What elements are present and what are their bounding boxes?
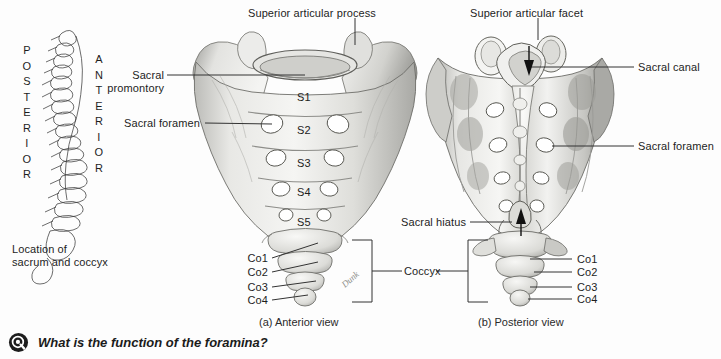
label-superior-articular-process: Superior articular process <box>248 7 376 20</box>
coccygeal-label-a-co4: Co4 <box>232 294 268 307</box>
coccygeal-label-b-co4: Co4 <box>577 293 597 306</box>
vertebra-label-s3: S3 <box>297 157 311 170</box>
leader-lines-layer <box>0 0 721 359</box>
caption-posterior-view: (b) Posterior view <box>478 316 564 328</box>
coccygeal-label-b-co1: Co1 <box>577 253 597 266</box>
sacral-canal-arrow <box>524 46 534 76</box>
label-coccyx: Coccyx <box>404 265 441 278</box>
vertebra-label-s1: S1 <box>297 91 311 104</box>
figure-canvas: POSTERIOR ANTERIOR <box>0 0 721 359</box>
question-circle-icon <box>8 332 29 353</box>
label-sacral-canal: Sacral canal <box>638 61 700 74</box>
label-sacral-hiatus: Sacral hiatus <box>386 216 466 229</box>
question-text: What is the function of the foramina? <box>38 335 268 350</box>
vertebra-label-s2: S2 <box>297 124 311 137</box>
coccygeal-label-b-co2: Co2 <box>577 266 597 279</box>
coccygeal-label-a-co3: Co3 <box>232 281 268 294</box>
label-sacral-foramen-posterior: Sacral foramen <box>638 140 714 153</box>
coccygeal-label-b-co3: Co3 <box>577 281 597 294</box>
vertebra-label-s4: S4 <box>297 186 311 199</box>
sacral-hiatus-arrow <box>516 208 526 236</box>
label-sacral-promontory: Sacral promontory <box>82 69 164 94</box>
question-bar: What is the function of the foramina? <box>0 329 721 359</box>
caption-anterior-view: (a) Anterior view <box>259 316 338 328</box>
label-sacral-foramen-anterior: Sacral foramen <box>82 117 200 130</box>
coccygeal-label-a-co2: Co2 <box>232 266 268 279</box>
vertebra-label-s5: S5 <box>297 216 311 229</box>
label-superior-articular-facet: Superior articular facet <box>470 7 583 20</box>
coccygeal-label-a-co1: Co1 <box>232 252 268 265</box>
